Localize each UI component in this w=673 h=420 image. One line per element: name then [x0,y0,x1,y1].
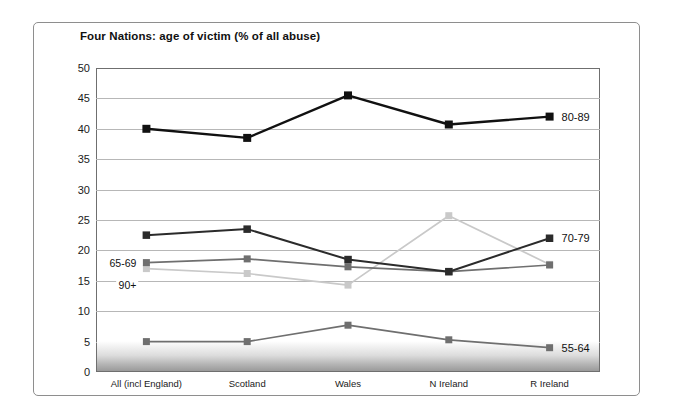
x-axis-tick: All (incl England) [111,378,182,389]
plot-area [96,68,600,372]
data-point-marker [546,262,553,269]
x-axis-tick-labels: All (incl England)ScotlandWalesN Ireland… [96,378,600,398]
x-axis-tick: N Ireland [430,378,469,389]
series-label-55-64: 55-64 [562,342,590,354]
series-90+ [143,212,553,288]
data-point-marker [143,338,150,345]
data-point-marker [143,265,150,272]
y-axis-tick: 35 [50,153,90,165]
series-line [146,216,549,285]
series-80-89 [142,91,553,141]
y-axis-tick: 15 [50,275,90,287]
x-axis-tick: Scotland [229,378,266,389]
x-axis-tick: Wales [335,378,361,389]
data-point-marker [244,270,251,277]
series-label-80-89: 80-89 [562,111,590,123]
series-label-65-69: 65-69 [108,257,139,269]
y-axis-tick: 50 [50,62,90,74]
x-axis-tick: R Ireland [530,378,569,389]
data-point-marker [445,212,452,219]
data-point-marker [344,91,352,99]
data-point-marker [344,256,352,263]
data-point-marker [243,134,251,142]
y-axis-tick-labels: 05101520253035404550 [46,68,90,372]
data-point-marker [244,255,251,262]
data-point-marker [546,344,553,351]
data-point-marker [142,125,150,133]
chart-title: Four Nations: age of victim (% of all ab… [80,30,320,42]
series-55-64 [143,322,553,352]
y-axis-tick: 5 [50,336,90,348]
y-axis-tick: 40 [50,123,90,135]
series-line [146,95,549,137]
y-axis-tick: 20 [50,244,90,256]
y-axis-tick: 25 [50,214,90,226]
y-axis-tick: 10 [50,305,90,317]
series-layer [96,68,600,372]
data-point-marker [345,263,352,270]
data-point-marker [243,225,251,233]
y-axis-tick: 45 [50,92,90,104]
data-point-marker [546,235,554,243]
y-axis-tick: 30 [50,184,90,196]
data-point-marker [345,322,352,329]
data-point-marker [143,259,150,266]
data-point-marker [345,282,352,289]
data-point-marker [445,268,453,276]
series-label-90+: 90+ [117,279,139,291]
data-point-marker [143,231,151,239]
data-point-marker [546,113,554,121]
data-point-marker [445,336,452,343]
y-axis-tick: 0 [50,366,90,378]
data-point-marker [445,121,453,129]
series-label-70-79: 70-79 [562,232,590,244]
data-point-marker [244,338,251,345]
